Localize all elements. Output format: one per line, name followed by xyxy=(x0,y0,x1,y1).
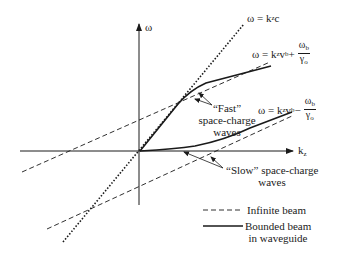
slow-line-equation: ω = kz vb − ωbγo xyxy=(258,96,316,123)
fast-line-equation: ω = kz vb + ωbγo xyxy=(252,40,310,67)
fast-annotation-line2: space-charge xyxy=(196,114,258,126)
y-axis-label: ω xyxy=(145,21,152,33)
light-line-equation: ω = kzc xyxy=(247,12,279,24)
dispersion-diagram xyxy=(0,0,339,255)
slow-waves-annotation: “Slow” space-charge waves xyxy=(226,164,318,188)
slow-pointer-arrow xyxy=(184,152,223,168)
legend-infinite-beam-label: Infinite beam xyxy=(247,204,306,216)
legend-bounded-beam-label: Bounded beam in waveguide xyxy=(245,220,311,244)
fast-waves-annotation: “Fast” space-charge waves xyxy=(196,102,258,138)
slow-annotation-line1: “Slow” space-charge xyxy=(226,164,318,176)
fast-annotation-line1: “Fast” xyxy=(196,102,258,114)
x-axis-label: kz xyxy=(298,144,307,160)
slow-pointer-arrow xyxy=(211,157,223,168)
slow-annotation-line2: waves xyxy=(226,176,318,188)
fast-annotation-line3: waves xyxy=(196,126,258,138)
